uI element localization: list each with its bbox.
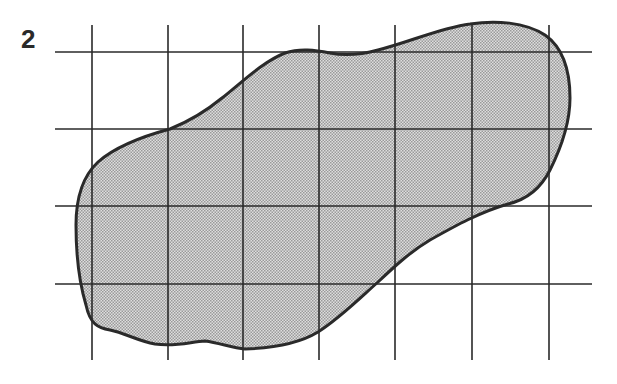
- shaded-region: [76, 22, 570, 349]
- grid-area-figure: [0, 0, 617, 384]
